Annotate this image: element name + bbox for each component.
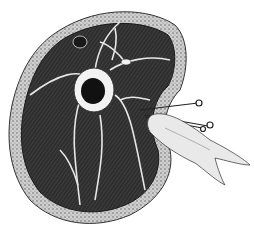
vessel [73, 36, 87, 48]
bone [74, 68, 114, 112]
cross-section-illustration [0, 0, 254, 238]
bone-marrow [81, 78, 105, 104]
vessel [121, 59, 131, 65]
